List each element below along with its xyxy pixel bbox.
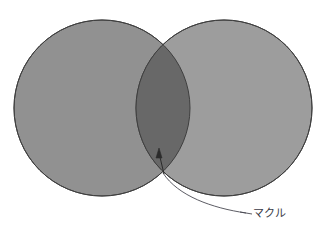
annotation-label: マクル [253, 207, 287, 220]
venn-diagram: マクル [0, 0, 326, 235]
venn-diagram-canvas: マクル [0, 0, 326, 235]
